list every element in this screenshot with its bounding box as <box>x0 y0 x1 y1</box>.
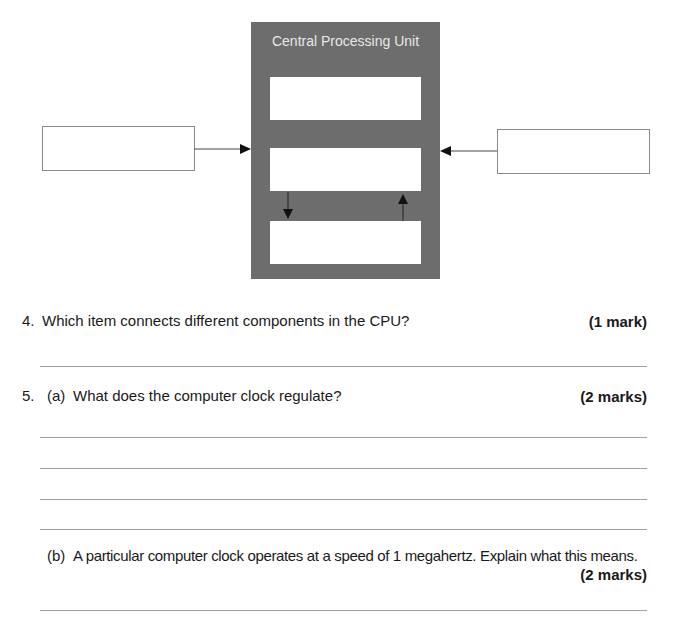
answer-line[interactable] <box>40 610 647 611</box>
answer-line[interactable] <box>40 366 647 367</box>
question-4-number: 4. <box>22 312 35 329</box>
question-5b-marks: (2 marks) <box>580 566 647 583</box>
answer-line[interactable] <box>40 468 647 469</box>
question-5b-label: (b) <box>47 547 65 564</box>
question-5a-label: (a) <box>47 387 65 404</box>
question-5-number: 5. <box>22 387 35 404</box>
arrow-right-icon <box>240 144 251 154</box>
arrow-up-icon <box>398 194 408 204</box>
question-5b-text: A particular computer clock operates at … <box>73 547 638 564</box>
question-4-marks: (1 mark) <box>589 313 647 330</box>
question-5a-marks: (2 marks) <box>580 388 647 405</box>
answer-line[interactable] <box>40 437 647 438</box>
arrow-left-icon <box>440 146 451 156</box>
question-5a-text: What does the computer clock regulate? <box>73 387 341 404</box>
question-4-text: Which item connects different components… <box>42 312 409 329</box>
diagram-arrows <box>0 0 681 300</box>
answer-line[interactable] <box>40 499 647 500</box>
arrow-down-icon <box>283 209 293 219</box>
answer-line[interactable] <box>40 529 647 530</box>
